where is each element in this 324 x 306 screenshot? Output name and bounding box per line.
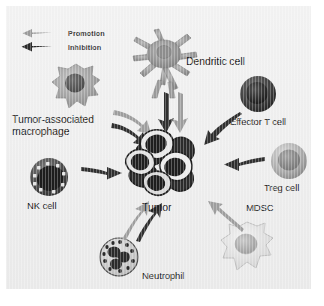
promotion-arrow-icon [208, 201, 244, 232]
arrow-nk-to-tumor [80, 161, 124, 183]
arrow-effector-t-to-tumor [202, 112, 244, 150]
inhibition-arrow-icon [81, 167, 122, 180]
cell-effector-t-cell[interactable] [238, 74, 278, 114]
cell-label-tumor-associated-macrophage: Tumor-associated macrophage [12, 114, 94, 137]
cell-treg-cell[interactable] [269, 141, 309, 181]
legend [20, 26, 62, 58]
tumor-cell-cluster-icon [123, 126, 207, 204]
legend-label-promotion: Promotion [68, 29, 105, 38]
legend-arrows [20, 26, 62, 58]
inhibition-arrow-icon [204, 112, 242, 145]
treg-cell-icon [269, 141, 309, 181]
cell-tumor-associated-macrophage[interactable] [50, 62, 102, 112]
cell-label-neutrophil: Neutrophil [142, 270, 184, 282]
arrow-treg-to-tumor [223, 151, 267, 175]
inhibition-arrow-icon [22, 42, 53, 51]
arrow-mdsc-to-tumor [206, 196, 246, 234]
diagram-canvas: Promotion Inhibition Tumor-associated ma… [6, 6, 311, 289]
legend-label-inhibition: Inhibition [68, 43, 101, 52]
cell-label-mdsc: MDSC [246, 202, 274, 214]
cell-label-nk-cell: NK cell [27, 200, 56, 212]
cell-nk-cell[interactable] [28, 156, 70, 198]
inhibition-arrow-icon [224, 157, 265, 171]
promotion-arrow-icon [23, 29, 53, 37]
macrophage-icon [50, 62, 102, 112]
cell-label-tumor: Tumor [142, 202, 171, 214]
cell-label-treg-cell: Treg cell [264, 182, 299, 194]
tumor-cell-cluster[interactable] [123, 126, 207, 204]
effector-t-cell-icon [238, 74, 278, 114]
nk-cell-icon [28, 156, 70, 198]
cell-label-dendritic-cell: Dendritic cell [186, 56, 245, 68]
